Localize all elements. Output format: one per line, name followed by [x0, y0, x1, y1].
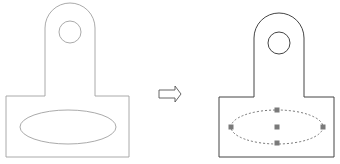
part-after — [219, 13, 334, 157]
grip-right[interactable] — [321, 125, 326, 130]
grip-top[interactable] — [275, 108, 280, 113]
part-before — [6, 3, 129, 157]
ellipse-cutout — [20, 110, 116, 144]
selection-grips — [229, 108, 326, 146]
grip-center[interactable] — [275, 125, 280, 130]
grip-left[interactable] — [229, 125, 234, 130]
arrow-icon — [159, 86, 181, 102]
grip-bottom[interactable] — [275, 141, 280, 146]
mounting-hole — [59, 21, 81, 43]
mounting-hole — [268, 32, 290, 54]
diagram-canvas — [0, 0, 340, 164]
